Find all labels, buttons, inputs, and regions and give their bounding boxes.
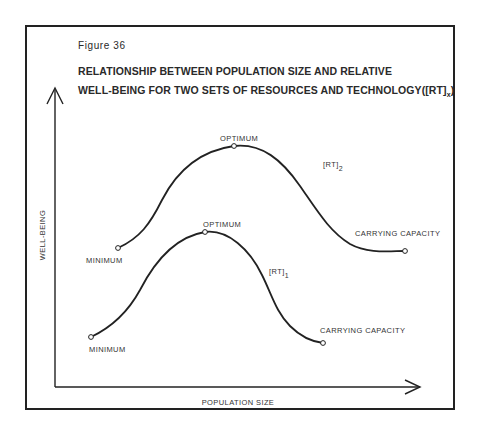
rt1-capacity-label: CARRYING CAPACITY	[320, 326, 405, 335]
chart-canvas: POPULATION SIZE WELL-BEING MINIMUM OPTIM…	[0, 0, 480, 434]
x-axis	[55, 380, 420, 394]
rt1-optimum-point	[203, 230, 208, 235]
rt1-minimum-point	[89, 335, 94, 340]
rt1-series-label: [RT]1	[269, 267, 289, 279]
rt2-capacity-point	[403, 249, 408, 254]
y-axis-label: WELL-BEING	[38, 210, 47, 260]
rt2-optimum-point	[232, 144, 237, 149]
x-axis-label: POPULATION SIZE	[202, 398, 275, 407]
rt1-capacity-point	[321, 341, 326, 346]
rt1-optimum-label: OPTIMUM	[203, 220, 241, 229]
rt2-minimum-label: MINIMUM	[86, 256, 123, 265]
rt2-minimum-point	[116, 246, 121, 251]
rt2-capacity-label: CARRYING CAPACITY	[355, 229, 440, 238]
y-axis	[47, 88, 63, 387]
rt2-optimum-label: OPTIMUM	[220, 134, 258, 143]
curve-rt1	[91, 232, 323, 343]
rt2-series-label: [RT]2	[323, 160, 343, 172]
rt1-minimum-label: MINIMUM	[89, 345, 126, 354]
